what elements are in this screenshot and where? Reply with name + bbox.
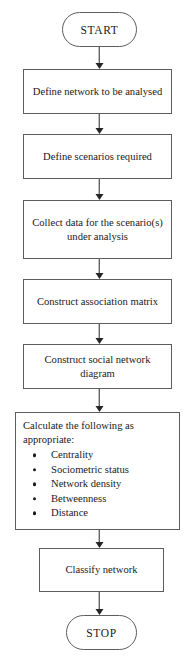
node-network-diagram: Construct social network diagram bbox=[23, 344, 172, 389]
list-item: Distance bbox=[23, 506, 174, 521]
node-collect-data-label: Collect data for the scenario(s) under a… bbox=[30, 216, 165, 244]
node-association-matrix: Construct association matrix bbox=[23, 279, 172, 324]
list-item-label: Centrality bbox=[51, 449, 93, 460]
connector-define-scenarios-to-collect-data bbox=[95, 179, 104, 200]
node-collect-data: Collect data for the scenario(s) under a… bbox=[23, 200, 172, 259]
bullet-icon bbox=[33, 512, 36, 515]
connector-association-matrix-to-network-diagram bbox=[95, 324, 104, 344]
connector-calculate-to-classify bbox=[95, 530, 104, 548]
bullet-icon bbox=[33, 454, 36, 457]
list-item: Network density bbox=[23, 477, 174, 492]
node-association-matrix-label: Construct association matrix bbox=[37, 295, 158, 309]
arrow-shaft bbox=[98, 47, 100, 63]
node-start-label: START bbox=[81, 24, 119, 36]
arrow-shaft bbox=[98, 389, 100, 406]
list-item: Sociometric status bbox=[23, 463, 174, 478]
node-stop: STOP bbox=[66, 615, 137, 650]
arrow-shaft bbox=[98, 259, 100, 273]
bullet-icon bbox=[33, 497, 36, 500]
list-item-label: Network density bbox=[51, 478, 121, 489]
bullet-icon bbox=[33, 468, 36, 471]
list-item-label: Distance bbox=[51, 507, 88, 518]
node-calculate-metrics: Calculate the following as appropriate: … bbox=[15, 412, 180, 530]
list-item: Betweenness bbox=[23, 492, 174, 507]
calculate-metrics-list: Centrality Sociometric status Network de… bbox=[23, 448, 174, 521]
connector-start-to-define-network bbox=[95, 47, 104, 69]
node-define-network-label: Define network to be analysed bbox=[33, 85, 162, 99]
node-classify-network-label: Classify network bbox=[65, 563, 137, 577]
node-calculate-metrics-label: Calculate the following as appropriate: bbox=[23, 419, 174, 447]
node-define-scenarios: Define scenarios required bbox=[23, 134, 172, 179]
arrow-shaft bbox=[98, 179, 100, 194]
arrow-shaft bbox=[98, 592, 100, 609]
arrow-shaft bbox=[98, 114, 100, 128]
arrow-shaft bbox=[98, 324, 100, 338]
node-start: START bbox=[62, 12, 137, 47]
connector-define-network-to-define-scenarios bbox=[95, 114, 104, 134]
node-network-diagram-label: Construct social network diagram bbox=[30, 353, 165, 381]
node-stop-label: STOP bbox=[86, 627, 116, 639]
node-define-scenarios-label: Define scenarios required bbox=[43, 150, 152, 164]
flowchart-canvas: START Define network to be analysed Defi… bbox=[0, 0, 195, 672]
connector-network-diagram-to-calculate bbox=[95, 389, 104, 412]
list-item: Centrality bbox=[23, 448, 174, 463]
bullet-icon bbox=[33, 483, 36, 486]
node-classify-network: Classify network bbox=[39, 548, 164, 592]
arrow-shaft bbox=[98, 530, 100, 542]
node-define-network: Define network to be analysed bbox=[23, 69, 172, 114]
list-item-label: Betweenness bbox=[51, 493, 106, 504]
connector-classify-to-stop bbox=[95, 592, 104, 615]
list-item-label: Sociometric status bbox=[51, 464, 129, 475]
connector-collect-data-to-association-matrix bbox=[95, 259, 104, 279]
